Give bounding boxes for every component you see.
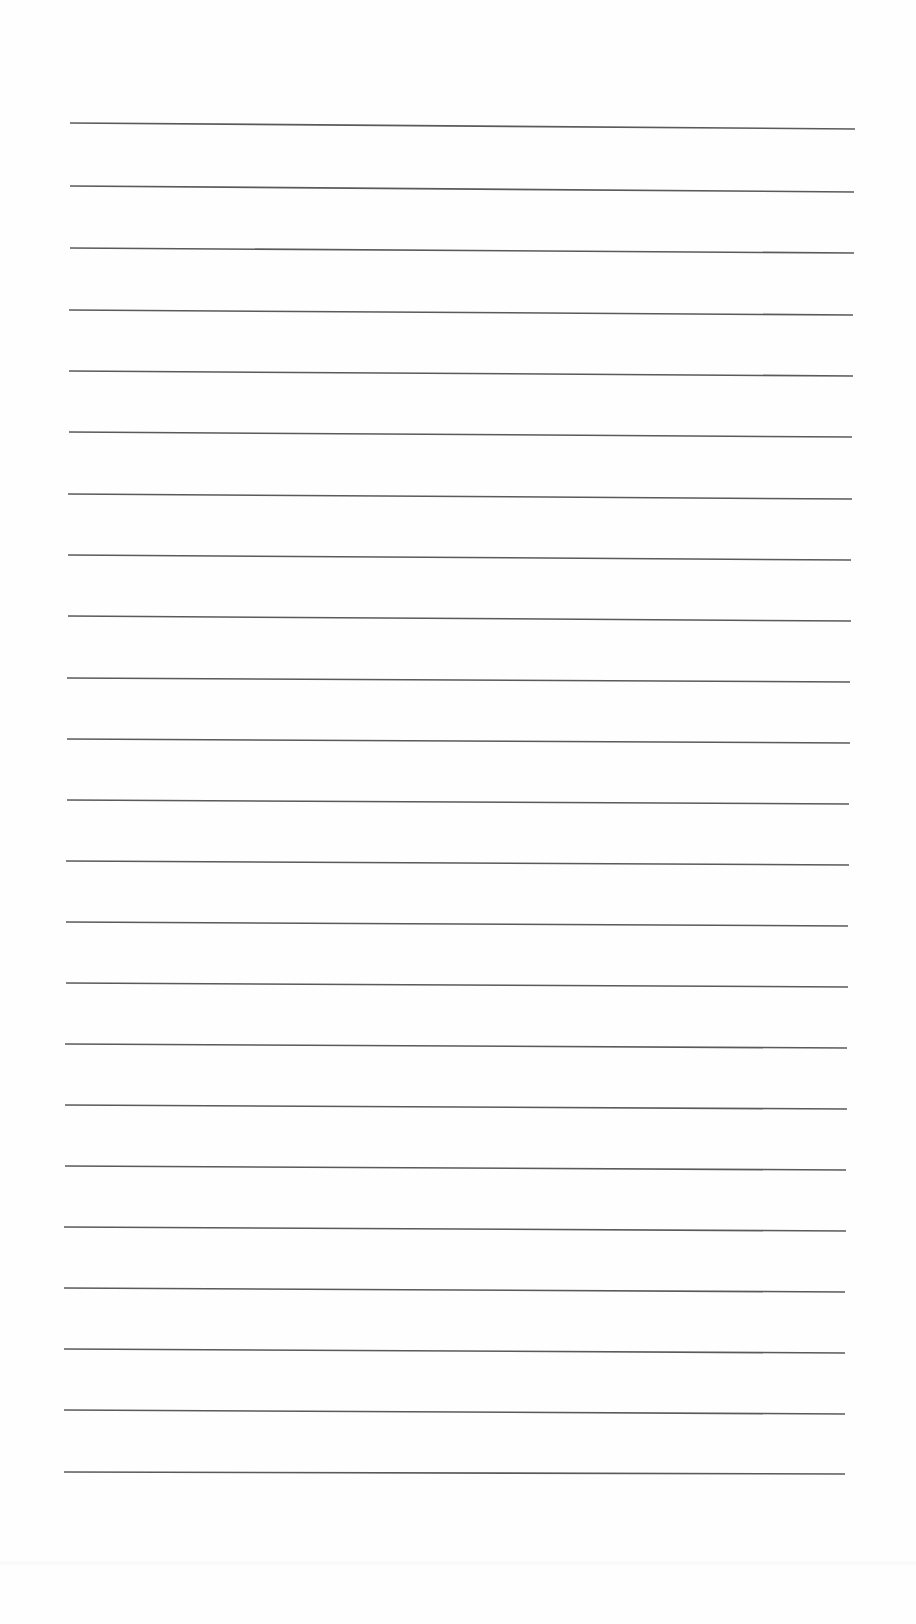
ruled-line [68, 555, 851, 560]
ruled-line [68, 494, 852, 499]
ruled-line [65, 1044, 847, 1048]
ruled-line [64, 1472, 845, 1474]
ruled-line [67, 800, 849, 804]
ruled-line [64, 1349, 845, 1353]
ruled-line [64, 1227, 846, 1231]
ruled-line [66, 983, 848, 987]
ruled-line [69, 432, 852, 437]
lined-paper-page [0, 0, 916, 1624]
ruled-line [66, 861, 849, 865]
ruled-line [66, 922, 848, 926]
ruled-lines [0, 0, 916, 1624]
ruled-line [65, 1105, 847, 1109]
ruled-line [67, 678, 850, 682]
ruled-line [70, 248, 854, 253]
ruled-line [65, 1166, 846, 1170]
ruled-line [70, 123, 855, 129]
ruled-line [67, 739, 850, 743]
ruled-line [64, 1410, 845, 1414]
ruled-line [69, 310, 853, 315]
ruled-line [68, 616, 851, 621]
scan-artifact [0, 1560, 916, 1566]
ruled-line [64, 1288, 845, 1292]
ruled-line [70, 186, 854, 192]
ruled-line [69, 371, 853, 376]
